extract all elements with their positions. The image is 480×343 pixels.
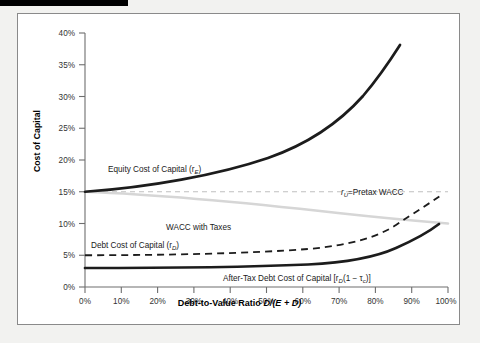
redaction-bar	[0, 0, 128, 6]
annotation-debt-tail: )	[176, 241, 179, 250]
chart-plot-area: 40% 35% 30% 25% 20% 15% 10% 5% 0%	[18, 14, 461, 326]
y-tick-label: 25%	[59, 124, 75, 133]
cost-of-capital-chart: 40% 35% 30% 25% 20% 15% 10% 5% 0%	[18, 14, 461, 326]
y-tick-label: 30%	[59, 93, 75, 102]
x-axis-title-head: Debt-to-Value Ratio	[178, 298, 264, 308]
y-axis-title: Cost of Capital	[32, 81, 42, 201]
annotation-debt-text: Debt Cost of Capital (r	[91, 241, 172, 250]
x-axis-ticks	[85, 287, 448, 293]
annotation-pretax-tail: =Pretax WACC	[348, 188, 404, 197]
x-axis-title-math: D/(E + D)	[263, 298, 301, 308]
annotation-equity-text: Equity Cost of Capital (r	[108, 165, 195, 174]
y-tick-label: 0%	[63, 283, 75, 292]
y-axis-ticks	[79, 33, 85, 287]
y-tick-label: 40%	[59, 29, 75, 38]
y-tick-label: 20%	[59, 156, 75, 165]
y-tick-label: 35%	[59, 61, 75, 70]
annotation-debt-cost-of-capital: Debt Cost of Capital (rD)	[91, 241, 179, 251]
x-axis-title: Debt-to-Value Ratio D/(E + D)	[18, 298, 461, 308]
y-axis-tick-labels: 40% 35% 30% 25% 20% 15% 10% 5% 0%	[59, 29, 75, 292]
annotation-after-tax-debt-cost: After-Tax Debt Cost of Capital [rD(1 − τ…	[223, 274, 371, 284]
y-tick-label: 5%	[63, 251, 75, 260]
annotation-equity-tail: )	[198, 165, 201, 174]
y-tick-label: 10%	[59, 220, 75, 229]
annotation-equity-cost-of-capital: Equity Cost of Capital (rE)	[108, 165, 201, 175]
annotation-pretax-wacc: rU=Pretax WACC	[341, 188, 404, 198]
annotation-aftertax-mid: (1 − τ	[343, 274, 364, 283]
annotation-aftertax-tail: )]	[366, 274, 371, 283]
annotation-wacc-with-taxes: WACC with Taxes	[166, 223, 231, 232]
annotation-aftertax-head: After-Tax Debt Cost of Capital [r	[223, 274, 339, 283]
figure-frame: 40% 35% 30% 25% 20% 15% 10% 5% 0%	[17, 13, 460, 325]
y-tick-label: 15%	[59, 188, 75, 197]
